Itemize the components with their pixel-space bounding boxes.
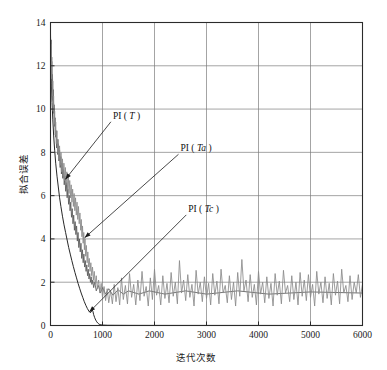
y-tick-label: 12 [36,61,46,71]
x-tick-label: 2000 [145,330,164,340]
y-tick-label: 14 [36,18,46,28]
x-tick-label: 4000 [249,330,268,340]
y-tick-label: 10 [36,104,46,114]
fitting-error-vs-iterations-chart: 0100020003000400050006000 02468101214 PI… [0,0,387,370]
y-tick-label: 0 [41,321,46,331]
x-tick-label: 3000 [197,330,216,340]
x-tick-label: 1000 [93,330,112,340]
y-tick-label: 4 [41,234,46,244]
x-tick-label: 0 [48,330,53,340]
x-tick-label: 5000 [301,330,320,340]
chart-figure: 0100020003000400050006000 02468101214 PI… [0,0,387,370]
y-tick-label: 2 [41,278,46,288]
y-tick-label: 8 [41,148,46,158]
y-axis-title: 拟合误差 [18,154,29,194]
annotation-label-pi-ta: PI ( Ta ) [181,143,212,154]
x-axis-title: 迭代次数 [176,352,216,363]
y-tick-label: 6 [41,191,46,201]
x-tick-label: 6000 [353,330,372,340]
annotation-label-pi-t: PI ( T ) [113,111,140,122]
annotation-label-pi-tc: PI ( Tc ) [188,204,219,215]
